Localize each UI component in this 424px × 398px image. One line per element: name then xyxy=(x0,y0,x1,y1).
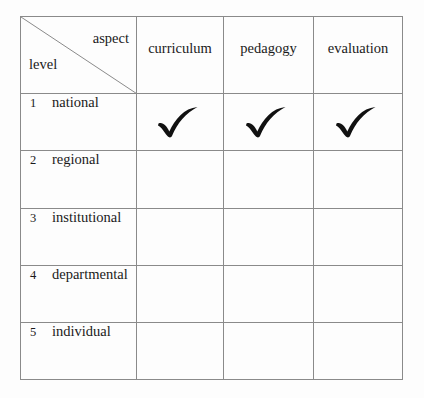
column-header-label: pedagogy xyxy=(224,41,313,56)
row-header-institutional: 3 institutional xyxy=(21,208,137,265)
cell-departmental-curriculum xyxy=(137,265,224,322)
cell-individual-pedagogy xyxy=(224,322,314,379)
check-mark-icon xyxy=(334,106,380,138)
cell-national-pedagogy xyxy=(224,94,314,151)
table-row: 3 institutional xyxy=(21,208,403,265)
cell-individual-evaluation xyxy=(314,322,403,379)
cell-national-evaluation xyxy=(314,94,403,151)
cell-departmental-evaluation xyxy=(314,265,403,322)
row-number: 4 xyxy=(30,268,52,283)
row-label: institutional xyxy=(52,209,121,226)
row-header-national: 1 national xyxy=(21,94,137,151)
aspect-level-matrix: aspect level curriculum pedagogy evaluat… xyxy=(20,16,403,380)
row-header-individual: 5 individual xyxy=(21,322,137,379)
row-label: departmental xyxy=(52,266,128,283)
row-number: 5 xyxy=(30,325,52,340)
corner-header-cell: aspect level xyxy=(21,17,137,94)
column-header-label: evaluation xyxy=(314,41,402,56)
cell-institutional-curriculum xyxy=(137,208,224,265)
table-row: 1 national xyxy=(21,94,403,151)
cell-national-curriculum xyxy=(137,94,224,151)
table-row: 5 individual xyxy=(21,322,403,379)
cell-regional-pedagogy xyxy=(224,151,314,208)
row-label: national xyxy=(52,94,99,111)
cell-regional-curriculum xyxy=(137,151,224,208)
matrix-figure: aspect level curriculum pedagogy evaluat… xyxy=(20,16,402,380)
row-label: individual xyxy=(52,323,111,340)
column-header-evaluation: evaluation xyxy=(314,17,403,94)
column-header-curriculum: curriculum xyxy=(137,17,224,94)
column-header-pedagogy: pedagogy xyxy=(224,17,314,94)
level-axis-label: level xyxy=(29,57,57,72)
table-row: 4 departmental xyxy=(21,265,403,322)
aspect-axis-label: aspect xyxy=(93,31,129,46)
cell-regional-evaluation xyxy=(314,151,403,208)
cell-departmental-pedagogy xyxy=(224,265,314,322)
row-number: 3 xyxy=(30,211,52,226)
table-row: 2 regional xyxy=(21,151,403,208)
row-header-departmental: 4 departmental xyxy=(21,265,137,322)
row-number: 1 xyxy=(30,96,52,111)
check-mark-icon xyxy=(244,106,290,138)
cell-institutional-evaluation xyxy=(314,208,403,265)
column-header-label: curriculum xyxy=(137,41,223,56)
row-label: regional xyxy=(52,151,100,168)
check-mark-icon xyxy=(156,106,202,138)
cell-individual-curriculum xyxy=(137,322,224,379)
row-number: 2 xyxy=(30,153,52,168)
row-header-regional: 2 regional xyxy=(21,151,137,208)
cell-institutional-pedagogy xyxy=(224,208,314,265)
header-row: aspect level curriculum pedagogy evaluat… xyxy=(21,17,403,94)
